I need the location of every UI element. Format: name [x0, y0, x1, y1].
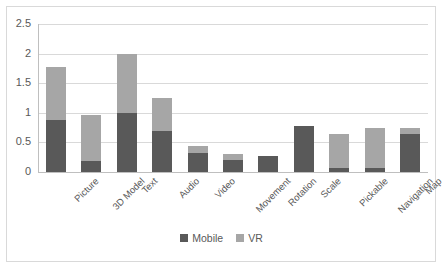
x-axis-tick-label: Audio	[177, 176, 201, 200]
bar-stack	[81, 115, 101, 172]
bar-stack	[117, 54, 137, 172]
legend-item[interactable]: Mobile	[180, 232, 223, 244]
y-axis-tick-label: 1	[25, 107, 31, 118]
bar-segment-mobile[interactable]	[188, 153, 208, 172]
bar-group[interactable]	[357, 24, 392, 172]
bar-stack	[365, 128, 385, 172]
legend-label: VR	[248, 232, 263, 244]
y-axis-tick-label: 2.5	[16, 18, 31, 29]
bar-group[interactable]	[286, 24, 321, 172]
bar-segment-mobile[interactable]	[223, 160, 243, 172]
bar-stack	[188, 146, 208, 172]
bar-segment-mobile[interactable]	[329, 168, 349, 172]
bar-stack	[329, 134, 349, 172]
x-axis-tick-label: Movement	[254, 176, 292, 214]
y-axis-tick-label: 0.5	[16, 136, 31, 147]
bar-group[interactable]	[38, 24, 73, 172]
bar-group[interactable]	[144, 24, 179, 172]
bar-group[interactable]	[322, 24, 357, 172]
bar-group[interactable]	[109, 24, 144, 172]
x-axis-tick-label: Scale	[319, 176, 343, 200]
bar-segment-vr[interactable]	[46, 67, 66, 120]
bar-segment-vr[interactable]	[117, 54, 137, 113]
bar-segment-mobile[interactable]	[46, 120, 66, 172]
x-axis-tick-label: Video	[213, 176, 237, 200]
x-axis-tick-label: Rotation	[287, 176, 319, 208]
y-axis-tick-label: 0	[25, 166, 31, 177]
bar-group[interactable]	[180, 24, 215, 172]
bar-group[interactable]	[251, 24, 286, 172]
y-axis-tick-label: 1.5	[16, 77, 31, 88]
bar-segment-mobile[interactable]	[81, 161, 101, 172]
stacked-bar-chart: 00.511.522.5 Picture3D ModelTextAudioVid…	[0, 0, 443, 270]
bar-stack	[400, 128, 420, 172]
bar-segment-mobile[interactable]	[258, 156, 278, 172]
bar-stack	[223, 154, 243, 172]
bar-stack	[152, 98, 172, 172]
x-axis-tick-label: Picture	[72, 176, 100, 204]
bar-group[interactable]	[393, 24, 428, 172]
bar-segment-vr[interactable]	[329, 134, 349, 168]
bar-group[interactable]	[73, 24, 108, 172]
y-axis-tick-label: 2	[25, 48, 31, 59]
bar-segment-mobile[interactable]	[400, 134, 420, 172]
bar-segment-mobile[interactable]	[152, 131, 172, 172]
legend-swatch-icon	[180, 234, 188, 242]
legend-swatch-icon	[236, 234, 244, 242]
bar-segment-mobile[interactable]	[294, 126, 314, 172]
bar-stack	[294, 126, 314, 172]
x-axis-tick-label: Pickable	[358, 176, 390, 208]
x-axis-tick-label: 3D Model	[111, 176, 147, 212]
bar-stack	[258, 156, 278, 172]
legend-label: Mobile	[192, 232, 223, 244]
bar-segment-vr[interactable]	[365, 128, 385, 169]
bar-stack	[46, 67, 66, 172]
legend-item[interactable]: VR	[236, 232, 263, 244]
bar-segment-vr[interactable]	[81, 115, 101, 161]
bar-segment-vr[interactable]	[188, 146, 208, 153]
x-axis-tick-labels: Picture3D ModelTextAudioVideoMovementRot…	[38, 173, 428, 229]
bars-layer	[38, 24, 428, 172]
bar-segment-mobile[interactable]	[117, 113, 137, 172]
bar-segment-mobile[interactable]	[365, 168, 385, 172]
y-axis-tick-labels: 00.511.522.5	[0, 24, 31, 172]
chart-legend: MobileVR	[0, 232, 443, 244]
bar-segment-vr[interactable]	[152, 98, 172, 131]
bar-group[interactable]	[215, 24, 250, 172]
